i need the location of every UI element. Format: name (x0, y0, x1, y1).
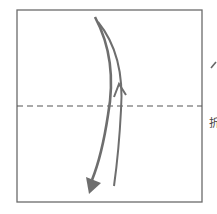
side-label: 折 (209, 118, 217, 129)
fold-diagram (0, 0, 217, 214)
side-arrow-tip-icon (211, 62, 216, 68)
